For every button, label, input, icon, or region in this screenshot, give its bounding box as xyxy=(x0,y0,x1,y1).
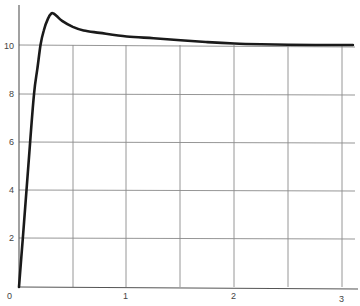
step-response-chart: 0 1 2 3 2 4 6 8 10 xyxy=(0,0,360,306)
y-tick-label: 2 xyxy=(9,233,14,243)
y-tick-label: 4 xyxy=(9,185,14,195)
x-tick-label: 2 xyxy=(231,291,236,301)
horizontal-grid-lines xyxy=(19,45,355,239)
x-axis xyxy=(19,287,358,289)
y-tick-label: 8 xyxy=(9,89,14,99)
y-tick-label: 10 xyxy=(4,41,14,51)
x-tick-label: 0 xyxy=(7,291,12,301)
response-curve xyxy=(19,13,353,287)
vertical-grid-lines xyxy=(73,45,342,287)
y-tick-label: 6 xyxy=(9,137,14,147)
x-tick-label: 1 xyxy=(123,291,128,301)
x-tick-label: 3 xyxy=(339,294,344,304)
